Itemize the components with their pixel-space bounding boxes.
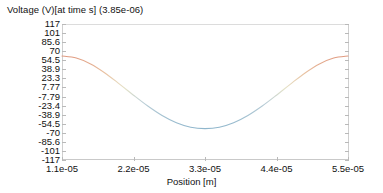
x-tick-label: 4.4e-05	[260, 163, 292, 174]
voltage-curve	[62, 24, 348, 160]
x-tick-mark	[348, 157, 349, 161]
right-axis-line	[348, 24, 349, 160]
chart-title: Voltage (V)[at time s] (3.85e-06)	[7, 4, 143, 15]
x-axis-title: Position [m]	[0, 176, 383, 187]
voltage-position-chart: Voltage (V)[at time s] (3.85e-06) 117101…	[0, 0, 383, 193]
x-tick-label: 1.1e-05	[46, 163, 78, 174]
x-tick-label: 2.2e-05	[117, 163, 149, 174]
curve-path	[62, 56, 348, 129]
x-tick-label: 3.3e-05	[189, 163, 221, 174]
x-tick-label: 5.5e-05	[332, 163, 364, 174]
